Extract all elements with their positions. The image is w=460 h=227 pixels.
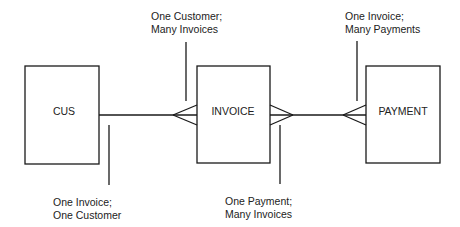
annotation-line: One Invoice; bbox=[345, 10, 420, 23]
annotation-line: One Customer bbox=[53, 209, 121, 222]
entity-label-payment: PAYMENT bbox=[378, 105, 427, 117]
annotation-cus-invoice-bottom: One Invoice; One Customer bbox=[53, 196, 121, 222]
annotation-line: One Customer; bbox=[151, 10, 222, 23]
entity-label-cus: CUS bbox=[53, 105, 75, 117]
annotation-line: One Payment; bbox=[225, 195, 292, 208]
annotation-cus-invoice-top: One Customer; Many Invoices bbox=[151, 10, 222, 36]
entity-label-invoice: INVOICE bbox=[211, 105, 254, 117]
annotation-line: One Invoice; bbox=[53, 196, 121, 209]
annotation-line: Many Invoices bbox=[225, 208, 292, 221]
annotation-line: Many Payments bbox=[345, 23, 420, 36]
annotation-invoice-payment-bottom: One Payment; Many Invoices bbox=[225, 195, 292, 221]
annotation-line: Many Invoices bbox=[151, 23, 222, 36]
annotation-invoice-payment-top: One Invoice; Many Payments bbox=[345, 10, 420, 36]
